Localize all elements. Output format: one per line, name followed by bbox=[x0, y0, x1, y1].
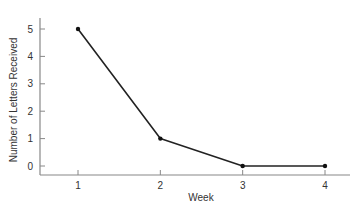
y-tick-label: 3 bbox=[27, 78, 33, 89]
y-tick-label: 4 bbox=[27, 51, 33, 62]
x-tick-label: 4 bbox=[322, 180, 328, 191]
line-chart: 012345 1234 Week Number of Letters Recei… bbox=[0, 0, 364, 214]
data-series bbox=[76, 27, 327, 168]
data-point-marker bbox=[76, 27, 80, 31]
data-point-marker bbox=[323, 164, 327, 168]
y-axis-title: Number of Letters Received bbox=[8, 38, 19, 163]
x-axis-title: Week bbox=[188, 192, 214, 203]
y-tick-label: 5 bbox=[27, 24, 33, 35]
y-tick-label: 0 bbox=[27, 161, 33, 172]
series-line bbox=[78, 29, 325, 166]
data-point-marker bbox=[240, 164, 244, 168]
x-tick-label: 2 bbox=[158, 180, 164, 191]
x-axis-ticks: 1234 bbox=[75, 170, 328, 191]
y-axis-ticks: 012345 bbox=[27, 24, 45, 172]
y-tick-label: 2 bbox=[27, 106, 33, 117]
x-tick-label: 1 bbox=[75, 180, 81, 191]
y-tick-label: 1 bbox=[27, 133, 33, 144]
x-tick-label: 3 bbox=[240, 180, 246, 191]
data-point-marker bbox=[158, 136, 162, 140]
